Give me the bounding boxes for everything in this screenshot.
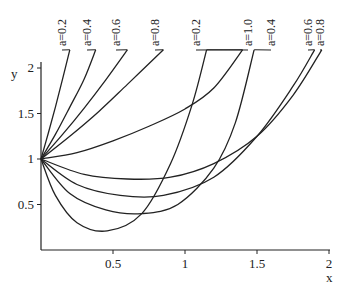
x-tick-label: 2 [326,256,333,271]
curve-lower-a-08 [41,50,322,180]
curve-label: a=1.0 [241,19,255,46]
chart: a=0.2a=0.4a=0.6a=0.8a=0.2a=1.0a=0.4a=0.6… [0,0,346,292]
x-axis-label: x [326,270,333,285]
y-tick-label: 2 [28,60,35,75]
curve-label: a=0.8 [148,19,162,46]
curve-label: a=0.8 [313,19,327,46]
curve-label: a=0.4 [264,19,278,46]
y-axis-label: y [11,66,18,81]
curve-lower-a-02 [41,50,207,231]
curve-upper-a-06 [41,50,127,159]
y-tick-label: 1.5 [18,106,34,121]
x-tick-label: 1 [182,256,189,271]
y-tick-label: 1 [28,151,35,166]
x-tick-label: 1.5 [249,256,265,271]
curves [41,50,322,231]
curve-label: a=0.6 [109,19,123,46]
curve-upper-a-08 [41,50,163,159]
curve-label: a=0.4 [80,19,94,46]
y-ticks: 0.511.52 [18,60,41,212]
curve-label: a=0.2 [189,19,203,46]
x-ticks: 0.511.52 [105,250,332,271]
curve-labels: a=0.2a=0.4a=0.6a=0.8a=0.2a=1.0a=0.4a=0.6… [55,19,327,46]
curve-lower-a-04 [41,50,254,214]
curve-label: a=0.2 [55,19,69,46]
y-tick-label: 0.5 [18,197,34,212]
x-tick-label: 0.5 [105,256,121,271]
